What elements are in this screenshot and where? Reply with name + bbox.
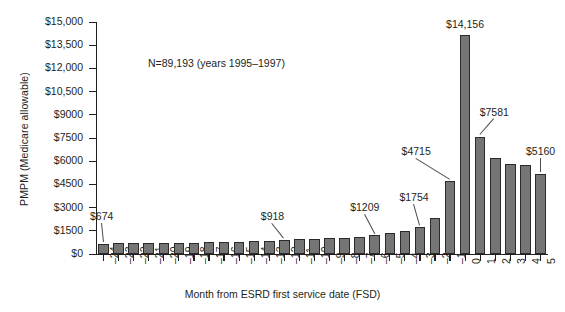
leader-line bbox=[416, 158, 451, 180]
y-axis-tick bbox=[89, 254, 96, 255]
y-axis-tick-label: $0 bbox=[8, 247, 83, 259]
x-axis-tick bbox=[419, 255, 420, 261]
x-axis-tick bbox=[510, 255, 511, 261]
x-axis-tick bbox=[193, 255, 194, 261]
y-axis-tick-label: $4500 bbox=[8, 177, 83, 189]
data-label: $14,156 bbox=[446, 18, 484, 30]
y-axis-tick bbox=[89, 22, 96, 23]
bar bbox=[460, 35, 471, 254]
data-label: $918 bbox=[261, 210, 284, 222]
y-axis-tick-label: $6000 bbox=[8, 154, 83, 166]
data-label: $1754 bbox=[399, 191, 428, 203]
bar bbox=[430, 218, 441, 254]
x-axis-tick bbox=[163, 255, 164, 261]
x-axis-tick bbox=[284, 255, 285, 261]
leader-line bbox=[540, 158, 541, 172]
x-axis-tick bbox=[314, 255, 315, 261]
chart-container: PMPM (Medicare allowable) Month from ESR… bbox=[0, 0, 565, 312]
x-axis-tick bbox=[540, 255, 541, 261]
x-axis-tick bbox=[480, 255, 481, 261]
y-axis-tick bbox=[89, 45, 96, 46]
x-axis-tick bbox=[374, 255, 375, 261]
x-axis-tick bbox=[254, 255, 255, 261]
y-axis-tick-label: $7500 bbox=[8, 131, 83, 143]
x-axis-tick-label: 5 bbox=[545, 234, 557, 264]
sample-size-annotation: N=89,193 (years 1995–1997) bbox=[148, 57, 285, 69]
x-axis-tick bbox=[269, 255, 270, 261]
leader-line bbox=[413, 204, 420, 225]
data-label: $7581 bbox=[480, 106, 509, 118]
y-axis-tick bbox=[89, 184, 96, 185]
y-axis-tick bbox=[89, 161, 96, 162]
x-axis-tick bbox=[359, 255, 360, 261]
x-axis-tick bbox=[239, 255, 240, 261]
y-axis-tick bbox=[89, 114, 96, 115]
y-axis-tick-label: $13,500 bbox=[8, 38, 83, 50]
y-axis-tick-label: $15,000 bbox=[8, 15, 83, 27]
x-axis-tick bbox=[208, 255, 209, 261]
bar bbox=[264, 241, 275, 254]
data-label: $674 bbox=[90, 210, 113, 222]
bar bbox=[219, 242, 230, 254]
x-axis-tick bbox=[389, 255, 390, 261]
x-axis-tick bbox=[118, 255, 119, 261]
y-axis-tick-label: $10,500 bbox=[8, 85, 83, 97]
y-axis-tick-label: $12,000 bbox=[8, 61, 83, 73]
x-axis-tick bbox=[344, 255, 345, 261]
leader-line bbox=[101, 223, 104, 242]
x-axis-tick bbox=[404, 255, 405, 261]
bar bbox=[234, 242, 245, 254]
bar bbox=[204, 242, 215, 254]
bar bbox=[505, 164, 516, 254]
y-axis-tick bbox=[89, 91, 96, 92]
x-axis-tick bbox=[133, 255, 134, 261]
x-axis-tick bbox=[495, 255, 496, 261]
y-axis-tick bbox=[89, 230, 96, 231]
bar bbox=[249, 241, 260, 254]
x-axis-tick bbox=[223, 255, 224, 261]
x-axis-tick bbox=[525, 255, 526, 261]
leader-line bbox=[479, 118, 494, 135]
y-axis-tick-label: $3000 bbox=[8, 201, 83, 213]
y-axis-tick bbox=[89, 138, 96, 139]
bar bbox=[475, 137, 486, 254]
x-axis-tick bbox=[103, 255, 104, 261]
x-axis-tick bbox=[449, 255, 450, 261]
data-label: $1209 bbox=[350, 201, 379, 213]
y-axis-tick bbox=[89, 207, 96, 208]
x-axis-tick bbox=[299, 255, 300, 261]
y-axis-tick-label: $9000 bbox=[8, 108, 83, 120]
data-label: $4715 bbox=[402, 145, 431, 157]
x-axis-tick bbox=[148, 255, 149, 261]
data-label: $5160 bbox=[526, 145, 555, 157]
x-axis-tick bbox=[434, 255, 435, 261]
y-axis-tick-label: $1500 bbox=[8, 224, 83, 236]
leader-line bbox=[364, 214, 375, 233]
x-axis-tick bbox=[178, 255, 179, 261]
bar bbox=[445, 181, 456, 254]
bar bbox=[490, 158, 501, 254]
x-axis-tick bbox=[465, 255, 466, 261]
bar bbox=[279, 240, 290, 254]
y-axis-tick bbox=[89, 68, 96, 69]
x-axis-title: Month from ESRD first service date (FSD) bbox=[0, 288, 565, 300]
x-axis-tick bbox=[329, 255, 330, 261]
